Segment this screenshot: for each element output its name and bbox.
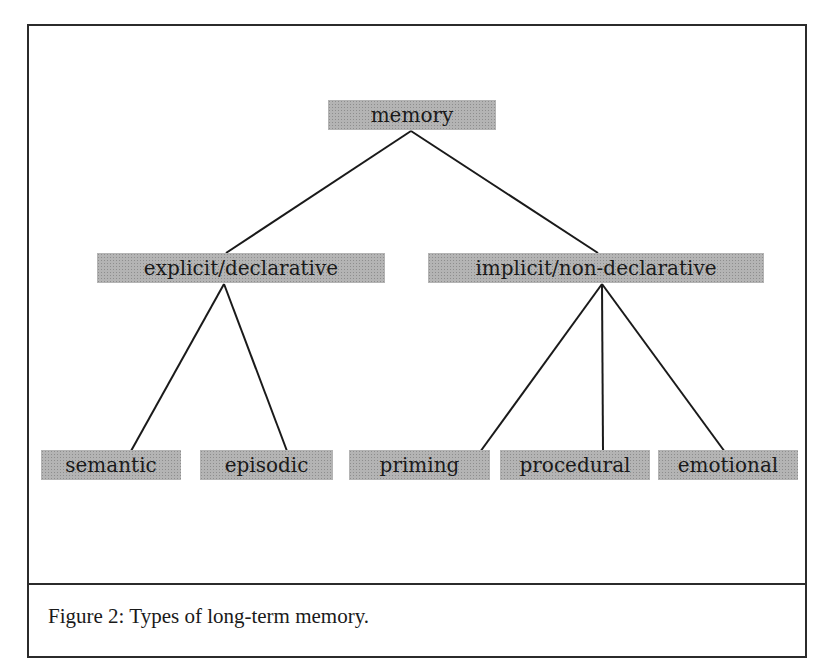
node-label: implicit/non-declarative <box>475 256 716 280</box>
node-priming: priming <box>349 450 490 480</box>
node-episodic: episodic <box>200 450 333 480</box>
node-label: procedural <box>519 453 630 477</box>
node-label: episodic <box>225 453 309 477</box>
edge-memory-implicit <box>411 131 598 253</box>
node-label: priming <box>380 453 460 477</box>
edge-explicit-episodic <box>224 284 287 451</box>
node-memory: memory <box>328 100 496 130</box>
node-implicit-non-declarative: implicit/non-declarative <box>428 253 764 283</box>
node-label: memory <box>371 103 454 127</box>
edge-implicit-emotional <box>602 284 725 452</box>
node-explicit-declarative: explicit/declarative <box>97 253 385 283</box>
edge-implicit-priming <box>480 284 602 452</box>
node-label: semantic <box>65 453 157 477</box>
node-procedural: procedural <box>500 450 650 480</box>
node-emotional: emotional <box>658 450 798 480</box>
figure-caption: Figure 2: Types of long-term memory. <box>48 604 369 629</box>
node-label: emotional <box>678 453 779 477</box>
edge-implicit-procedural <box>602 284 603 452</box>
node-label: explicit/declarative <box>144 256 338 280</box>
edge-explicit-semantic <box>131 284 224 451</box>
edge-memory-explicit <box>226 131 411 253</box>
node-semantic: semantic <box>41 450 181 480</box>
